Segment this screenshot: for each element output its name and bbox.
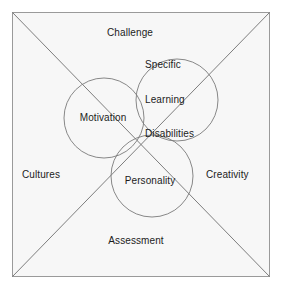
diagram-root: Challenge Cultures Creativity Assessment… [0,0,282,288]
sld-label-line-3: Disabilities [145,128,194,140]
circle-label-motivation: Motivation [80,112,127,124]
edge-label-right: Creativity [206,169,249,181]
sld-label-line-2: Learning [145,93,194,105]
circle-label-personality: Personality [125,175,176,187]
circle-label-specific-learning-disabilities: Specific Learning Disabilities [145,36,194,163]
sld-label-line-1: Specific [145,59,194,71]
edge-label-left: Cultures [22,169,60,181]
edge-label-bottom: Assessment [108,235,163,247]
